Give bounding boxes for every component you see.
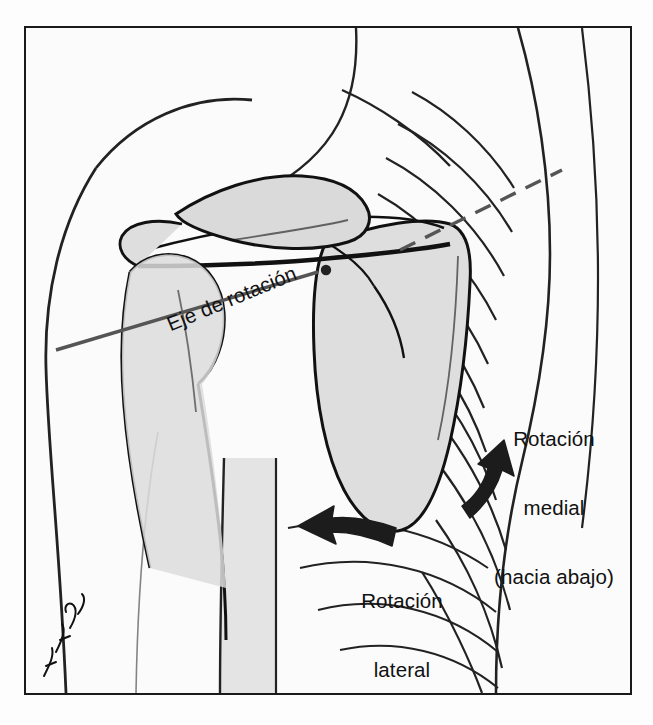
clavicle bbox=[176, 176, 369, 249]
figure-container: Eje de rotación Rotación medial (hacia a… bbox=[0, 0, 653, 725]
lateral-rotation-label-line1: Rotación bbox=[312, 590, 492, 613]
medial-rotation-label-line3: (hacia abajo) bbox=[470, 566, 632, 589]
medial-rotation-label: Rotación medial (hacia abajo) bbox=[470, 382, 632, 634]
medial-rotation-label-line2: medial bbox=[470, 497, 632, 520]
lateral-rotation-label: Rotación lateral (hacia arriba) bbox=[312, 544, 492, 695]
lateral-rotation-label-line2: lateral bbox=[312, 659, 492, 682]
illustration-frame: Eje de rotación Rotación medial (hacia a… bbox=[24, 26, 632, 695]
medial-rotation-label-line1: Rotación bbox=[470, 428, 632, 451]
